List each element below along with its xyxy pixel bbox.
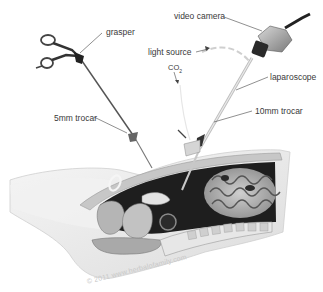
label-video-camera: video camera (174, 12, 225, 21)
label-co2-text: CO (168, 63, 179, 72)
label-light-source: light source (148, 48, 191, 57)
illustration (0, 0, 323, 292)
label-grasper: grasper (106, 28, 135, 37)
laparoscopy-diagram: grasper video camera light source CO2 la… (0, 0, 323, 292)
label-co2-subscript: 2 (179, 68, 182, 74)
grasper-instrument (36, 35, 152, 168)
label-laparoscope: laparoscope (270, 73, 316, 82)
label-co2: CO2 (168, 64, 182, 74)
label-10mm-trocar: 10mm trocar (255, 107, 303, 116)
label-5mm-trocar: 5mm trocar (54, 114, 97, 123)
body-cross-section (10, 150, 290, 278)
video-camera-device (251, 14, 310, 58)
